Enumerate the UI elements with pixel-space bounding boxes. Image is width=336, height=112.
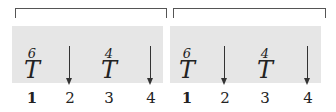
t-symbol: T [172, 58, 202, 82]
column-number: 1 [172, 89, 202, 107]
column-number: 4 [293, 89, 323, 107]
column-number: 3 [250, 89, 280, 107]
down-arrow-icon [307, 46, 308, 80]
column-1: 6 T 1 [172, 0, 202, 112]
column-number: 2 [210, 89, 240, 107]
t-symbol: T [250, 58, 280, 82]
column-2: 2 [210, 0, 240, 112]
measure-group-2: 6 T 1 2 4 T 3 4 [0, 0, 336, 112]
column-4: 4 [293, 0, 323, 112]
column-3: 4 T 3 [250, 0, 280, 112]
down-arrow-icon [224, 46, 225, 80]
